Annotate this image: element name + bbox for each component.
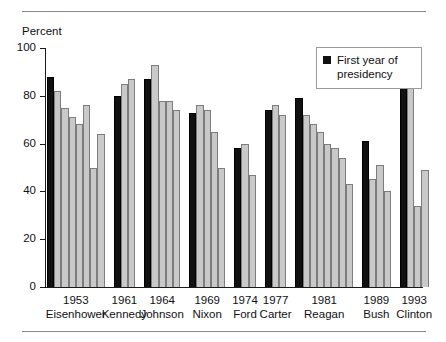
bar-later-year xyxy=(128,79,135,287)
bar-later-year xyxy=(211,132,218,287)
legend-label-line2: presidency xyxy=(337,68,393,80)
bar-later-year xyxy=(218,168,225,288)
bar-first-year xyxy=(47,77,54,287)
y-tick-label: 0 xyxy=(30,281,36,293)
bar-later-year xyxy=(339,158,346,287)
bar-first-year xyxy=(265,110,272,287)
y-tick-mark xyxy=(40,191,46,192)
bar-later-year xyxy=(173,110,180,287)
y-tick-label: 80 xyxy=(23,90,36,102)
bar-first-year xyxy=(362,141,369,287)
legend-label: First year of presidency xyxy=(337,53,398,82)
bar-first-year xyxy=(234,148,241,287)
bar-later-year xyxy=(279,115,286,287)
bar-later-year xyxy=(369,179,376,287)
bar-later-year xyxy=(303,115,310,287)
bar-first-year xyxy=(144,79,151,287)
bar-later-year xyxy=(83,105,90,287)
y-tick-mark xyxy=(40,287,46,288)
bar-later-year xyxy=(196,105,203,287)
black-square-icon xyxy=(323,56,331,64)
bar-later-year xyxy=(97,134,104,287)
bar-later-year xyxy=(421,170,428,287)
x-group-label: 1993Clinton xyxy=(374,293,446,322)
bar-first-year xyxy=(189,113,196,287)
bar-later-year xyxy=(151,65,158,287)
y-tick-mark xyxy=(40,239,46,240)
y-tick-mark xyxy=(40,144,46,145)
y-tick-mark xyxy=(40,96,46,97)
bar-first-year xyxy=(295,98,302,287)
x-axis-line xyxy=(45,287,423,288)
bar-later-year xyxy=(76,124,83,287)
y-tick-mark xyxy=(40,48,46,49)
top-rule xyxy=(22,11,426,12)
bar-first-year xyxy=(114,96,121,287)
bar-later-year xyxy=(54,91,61,287)
y-axis-tick-labels: 100806040200 xyxy=(0,0,36,342)
x-group-name: Clinton xyxy=(374,307,446,321)
y-tick-label: 40 xyxy=(23,185,36,197)
bar-later-year xyxy=(90,168,97,288)
bar-later-year xyxy=(376,165,383,287)
x-axis-tick-labels: 1953Eisenhower1961Kennedy1964Johnson1969… xyxy=(0,293,446,333)
chart-figure: Percent 100806040200 1953Eisenhower1961K… xyxy=(0,0,446,342)
bar-later-year xyxy=(317,132,324,287)
y-tick-label: 60 xyxy=(23,138,36,150)
bar-later-year xyxy=(324,144,331,287)
bar-first-year xyxy=(400,84,407,287)
bar-later-year xyxy=(159,101,166,287)
bar-later-year xyxy=(249,175,256,287)
bar-later-year xyxy=(310,124,317,287)
bar-later-year xyxy=(346,184,353,287)
bar-later-year xyxy=(121,84,128,287)
bar-later-year xyxy=(166,101,173,287)
bar-later-year xyxy=(407,84,414,287)
legend-label-line1: First year of xyxy=(337,54,398,66)
chart-legend: First year of presidency xyxy=(316,47,422,89)
bar-later-year xyxy=(331,148,338,287)
bar-later-year xyxy=(61,108,68,287)
bar-later-year xyxy=(384,191,391,287)
y-tick-label: 100 xyxy=(17,42,36,54)
bar-later-year xyxy=(414,206,421,287)
y-tick-label: 20 xyxy=(23,233,36,245)
bar-later-year xyxy=(272,105,279,287)
x-group-year: 1993 xyxy=(374,293,446,307)
bar-later-year xyxy=(204,110,211,287)
bar-later-year xyxy=(69,117,76,287)
bar-later-year xyxy=(241,144,248,287)
